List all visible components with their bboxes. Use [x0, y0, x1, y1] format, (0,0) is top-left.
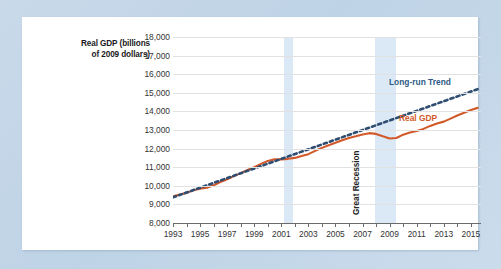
gridline [173, 93, 481, 94]
x-tick-label: 1993 [164, 229, 183, 239]
x-tick [241, 223, 242, 227]
gridline [173, 56, 481, 57]
gridline [173, 74, 481, 75]
y-tick-label: 15,000 [144, 88, 170, 98]
gridline [173, 149, 481, 150]
y-tick-label: 17,000 [144, 51, 170, 61]
x-tick [187, 223, 188, 227]
real-gdp-label: Real GDP [399, 113, 437, 123]
x-tick-label: 2009 [380, 229, 399, 239]
x-tick [430, 223, 431, 227]
x-tick [376, 223, 377, 227]
y-axis-title-line2: of 2009 dollars) [34, 50, 150, 61]
y-tick-label: 12,000 [144, 144, 170, 154]
x-tick [173, 223, 174, 227]
x-tick [403, 223, 404, 227]
x-tick [295, 223, 296, 227]
x-tick [349, 223, 350, 227]
gridline [173, 167, 481, 168]
gridline [173, 37, 481, 38]
x-tick-label: 2007 [353, 229, 372, 239]
y-tick-label: 9,000 [149, 199, 170, 209]
x-tick-label: 2005 [326, 229, 345, 239]
y-tick-label: 8,000 [149, 218, 170, 228]
x-tick [417, 223, 418, 227]
x-tick-label: 2001 [272, 229, 291, 239]
x-tick-label: 1995 [191, 229, 210, 239]
x-tick [444, 223, 445, 227]
y-axis-title: Real GDP (billions of 2009 dollars) [34, 39, 150, 60]
series-long-run-trend [173, 89, 479, 198]
x-tick-label: 2015 [462, 229, 481, 239]
x-tick [335, 223, 336, 227]
x-tick [227, 223, 228, 227]
x-tick [308, 223, 309, 227]
gridline [173, 186, 481, 187]
x-tick-label: 1997 [218, 229, 237, 239]
long-run-trend-label: Long-run Trend [389, 77, 451, 87]
x-tick [254, 223, 255, 227]
grid-area [173, 37, 481, 223]
x-tick [363, 223, 364, 227]
y-tick-label: 13,000 [144, 125, 170, 135]
figure-background: Real GDP (billions of 2009 dollars) Long… [0, 0, 501, 269]
plot-area: Long-run Trend Real GDP Great Recession … [151, 37, 481, 249]
gridline [173, 204, 481, 205]
y-axis-title-line1: Real GDP (billions [34, 39, 150, 50]
y-tick-label: 16,000 [144, 69, 170, 79]
x-tick-label: 1999 [245, 229, 264, 239]
y-tick-label: 11,000 [145, 162, 170, 172]
chart-panel: Real GDP (billions of 2009 dollars) Long… [22, 17, 478, 250]
x-tick-label: 2013 [434, 229, 453, 239]
x-tick [471, 223, 472, 227]
y-tick-label: 18,000 [144, 32, 170, 42]
x-tick [268, 223, 269, 227]
y-tick-label: 10,000 [144, 181, 170, 191]
x-tick [200, 223, 201, 227]
x-tick [457, 223, 458, 227]
x-axis-line [173, 223, 481, 224]
x-tick [281, 223, 282, 227]
great-recession-label: Great Recession [352, 150, 361, 215]
y-tick-label: 14,000 [144, 106, 170, 116]
x-tick-label: 2003 [299, 229, 318, 239]
x-tick [214, 223, 215, 227]
x-tick-label: 2011 [408, 229, 426, 239]
x-tick [322, 223, 323, 227]
gridline [173, 130, 481, 131]
x-tick [390, 223, 391, 227]
